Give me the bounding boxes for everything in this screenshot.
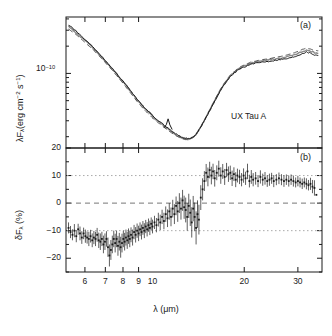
data-point xyxy=(247,171,249,173)
panel-a-plot xyxy=(0,0,332,336)
data-point xyxy=(262,179,264,181)
data-point xyxy=(216,172,218,174)
data-point xyxy=(150,223,152,225)
data-point xyxy=(235,179,237,181)
data-point xyxy=(118,241,120,243)
data-point xyxy=(84,235,86,237)
data-point xyxy=(266,180,268,182)
data-point xyxy=(90,235,92,237)
ylabel-b-sub: λ xyxy=(17,226,24,229)
data-point xyxy=(133,231,135,233)
data-point xyxy=(91,239,93,241)
ylabel-b-delta: δF xyxy=(14,229,24,240)
panel-b-frame xyxy=(66,148,322,272)
data-point xyxy=(148,224,150,226)
spectrum-curve-gray xyxy=(69,26,319,140)
data-point xyxy=(250,176,252,178)
data-point xyxy=(308,184,310,186)
data-point xyxy=(101,238,103,240)
data-point xyxy=(299,182,301,184)
x-axis-label: λ (μm) xyxy=(0,304,332,314)
data-point xyxy=(136,230,138,232)
data-point xyxy=(275,179,277,181)
data-point xyxy=(182,199,184,201)
data-point xyxy=(130,234,132,236)
data-point xyxy=(75,235,77,237)
data-point xyxy=(229,172,231,174)
data-point xyxy=(228,173,230,175)
data-point xyxy=(288,180,290,182)
data-point xyxy=(207,176,209,178)
data-point xyxy=(178,202,180,204)
data-point xyxy=(141,231,143,233)
x-tick-label-7: 7 xyxy=(96,276,114,286)
data-point xyxy=(198,219,200,221)
data-point xyxy=(285,179,287,181)
residual-data-group xyxy=(68,0,318,266)
data-point xyxy=(314,187,316,189)
spectrum-curve-model xyxy=(69,29,319,140)
ylabel-F-sub: λ xyxy=(18,129,25,132)
y-tick-label-b-10: 10 xyxy=(30,170,61,180)
figure-container: λFλ(erg cm−2 s−1) 10−10 (a) UX Tau A δFλ… xyxy=(0,0,332,336)
ylabel-sup2: −1 xyxy=(14,77,21,84)
data-point xyxy=(154,222,156,224)
x-tick-label-20: 20 xyxy=(235,276,253,286)
panel-a-tag: (a) xyxy=(300,20,311,30)
data-point xyxy=(303,182,305,184)
data-point xyxy=(77,228,79,230)
data-point xyxy=(81,237,83,239)
spectrum-curve-observed xyxy=(69,25,319,139)
data-point xyxy=(145,226,147,228)
ylabel-close: ) xyxy=(15,74,25,77)
panel-a-frame xyxy=(66,17,322,148)
data-point xyxy=(83,233,85,235)
data-point xyxy=(143,230,145,232)
data-point xyxy=(120,246,122,248)
data-point xyxy=(142,227,144,229)
data-point xyxy=(99,241,101,243)
data-point xyxy=(159,222,161,224)
data-point xyxy=(132,237,134,239)
data-point xyxy=(98,239,100,241)
data-point xyxy=(152,226,154,228)
data-point xyxy=(117,245,119,247)
data-point xyxy=(189,212,191,214)
data-point xyxy=(70,231,72,233)
data-point xyxy=(195,227,197,229)
data-point xyxy=(172,208,174,210)
y-tick-label-b-minus10: −10 xyxy=(30,225,61,235)
data-point xyxy=(264,177,266,179)
data-point xyxy=(297,180,299,182)
data-point xyxy=(124,241,126,243)
xlabel-rest: (μm) xyxy=(158,304,179,314)
ylabel-lambda: λ xyxy=(15,138,25,143)
data-point xyxy=(86,237,88,239)
ytick-exponent: −10 xyxy=(45,64,55,70)
data-point xyxy=(271,177,273,179)
data-point xyxy=(168,210,170,212)
data-point xyxy=(210,175,212,177)
data-point xyxy=(290,179,292,181)
data-point xyxy=(194,216,196,218)
data-point xyxy=(255,177,257,179)
data-point xyxy=(281,179,283,181)
data-point xyxy=(111,244,113,246)
data-point xyxy=(107,246,109,248)
data-point xyxy=(114,242,116,244)
data-point xyxy=(96,234,98,236)
panel-b-ylabel: δFλ (%) xyxy=(14,210,24,240)
data-point xyxy=(214,177,216,179)
data-point xyxy=(183,206,185,208)
data-point xyxy=(188,205,190,207)
data-point xyxy=(88,238,90,240)
data-point xyxy=(186,216,188,218)
data-point xyxy=(191,222,193,224)
data-point xyxy=(283,180,285,182)
data-point xyxy=(174,213,176,215)
data-point xyxy=(146,228,148,230)
data-point xyxy=(106,238,108,240)
x-tick-label-30: 30 xyxy=(289,276,307,286)
data-point xyxy=(138,233,140,235)
data-point xyxy=(315,194,317,196)
